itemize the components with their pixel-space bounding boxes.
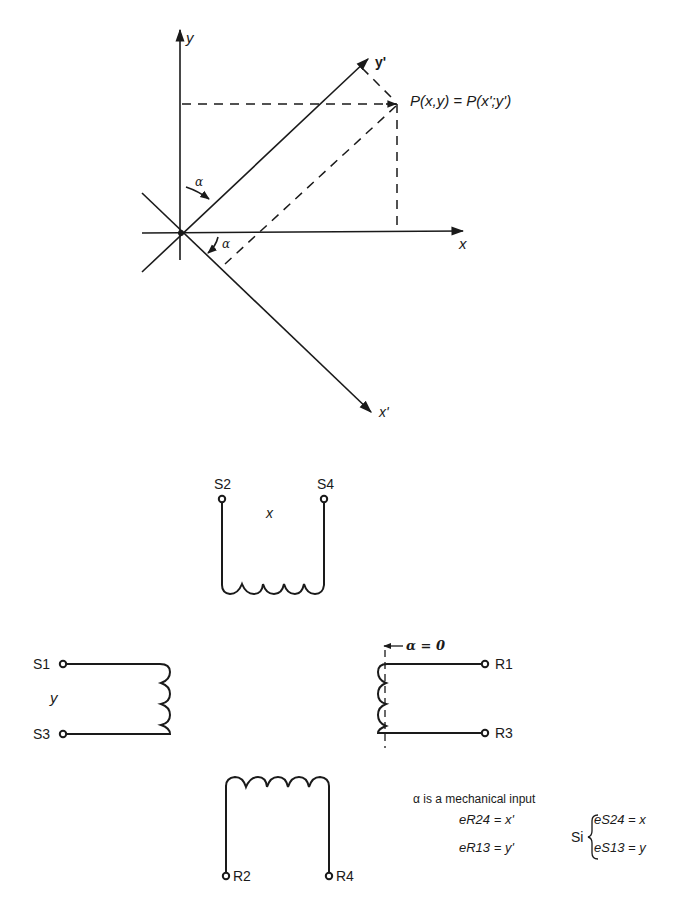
mechanical-input-note: α is a mechanical input <box>413 792 536 806</box>
terminal-s4: S4 <box>317 476 334 492</box>
angle-arrow-lower <box>208 237 218 253</box>
si-prefix: Si <box>571 829 583 845</box>
angle-label-upper: α <box>195 175 203 189</box>
x-axis <box>142 231 463 233</box>
stator-y-winding <box>60 661 170 737</box>
terminal-s1: S1 <box>33 656 50 672</box>
origin-point <box>178 230 184 236</box>
rotor-eq-r13: eR13 = y' <box>459 840 514 855</box>
stator-eq-s24: eS24 = x <box>594 812 646 827</box>
stator-x-winding <box>219 496 327 594</box>
terminal-s2: S2 <box>214 476 231 492</box>
projection-lines <box>182 68 397 264</box>
resolver-diagram <box>60 496 488 879</box>
stator-y-label: y <box>49 689 59 706</box>
y-prime-axis-label: y' <box>375 54 386 70</box>
coordinate-rotation-diagram <box>142 30 463 412</box>
angle-label-lower: α <box>222 237 230 251</box>
diagram-canvas: y x y' x' α α P(x,y) = P(x';y') <box>0 0 687 906</box>
x-prime-axis-label: x' <box>378 404 390 420</box>
rotor-24-winding <box>223 777 332 879</box>
y-prime-axis <box>142 59 368 272</box>
terminal-r4: R4 <box>336 868 354 884</box>
y-axis-label: y <box>185 29 195 46</box>
point-label: P(x,y) = P(x';y') <box>410 92 511 109</box>
terminal-s3: S3 <box>33 726 50 742</box>
alpha-zero-label: α = 0 <box>406 638 445 653</box>
stator-eq-s13: eS13 = y <box>594 840 647 855</box>
x-axis-label: x <box>458 235 467 252</box>
terminal-r3: R3 <box>495 725 513 741</box>
rotor-eq-r24: eR24 = x' <box>459 812 514 827</box>
terminal-r1: R1 <box>495 656 513 672</box>
stator-x-label: x <box>265 505 274 521</box>
x-prime-axis <box>142 193 371 412</box>
rotor-13-winding <box>378 646 488 748</box>
terminal-r2: R2 <box>233 868 251 884</box>
